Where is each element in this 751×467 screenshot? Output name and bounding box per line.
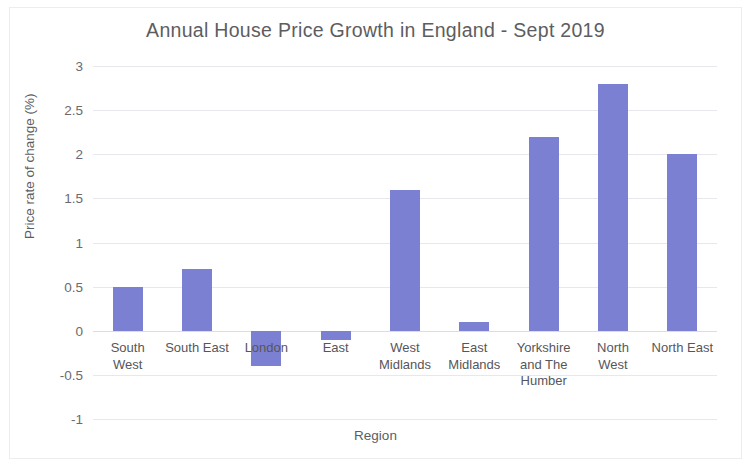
x-axis-category-label: Yorkshire and The Humber — [509, 340, 578, 390]
y-axis-tick-label: 3 — [37, 59, 83, 74]
y-axis-tick-label: 0 — [37, 323, 83, 338]
bar — [182, 269, 212, 331]
x-axis-category-label: East Midlands — [440, 340, 509, 373]
gridline — [93, 375, 717, 376]
chart-title: Annual House Price Growth in England - S… — [0, 19, 751, 42]
y-axis-title: Price rate of change (%) — [22, 93, 37, 239]
y-axis-tick-label: -1 — [37, 412, 83, 427]
bar — [598, 84, 628, 331]
bar — [390, 190, 420, 331]
gridline — [93, 66, 717, 67]
bar — [113, 287, 143, 331]
x-axis-category-label: South East — [162, 340, 231, 357]
y-axis-tick-label: 2 — [37, 147, 83, 162]
y-axis-tick-label: 2.5 — [37, 103, 83, 118]
x-axis-category-label: West Midlands — [370, 340, 439, 373]
y-axis-tick-label: 1.5 — [37, 191, 83, 206]
x-axis-title: Region — [0, 428, 751, 443]
bar-chart: Annual House Price Growth in England - S… — [0, 0, 751, 467]
x-axis-category-label: London — [232, 340, 301, 357]
bar — [667, 154, 697, 331]
bar — [459, 322, 489, 331]
bar — [529, 137, 559, 331]
x-axis-category-label: North West — [578, 340, 647, 373]
x-axis-category-label: East — [301, 340, 370, 357]
y-axis-tick-label: 0.5 — [37, 279, 83, 294]
x-axis-category-label: South West — [93, 340, 162, 373]
y-axis-tick-label: -0.5 — [37, 367, 83, 382]
x-axis-category-label: North East — [648, 340, 717, 357]
gridline — [93, 331, 717, 332]
y-axis-tick-label: 1 — [37, 235, 83, 250]
gridline — [93, 419, 717, 420]
bar — [321, 331, 351, 340]
